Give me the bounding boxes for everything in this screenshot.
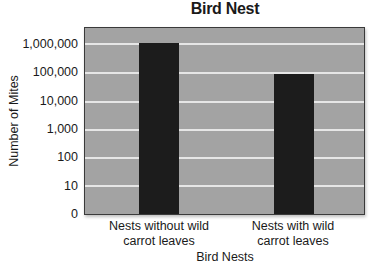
x-tick-nests-without-wild-carrot: Nests without wild carrot leaves — [89, 219, 229, 249]
x-tick-line-2: carrot leaves — [89, 234, 229, 249]
chart-title: Bird Nest — [84, 0, 366, 18]
y-tick-1000: 1,000 — [47, 122, 78, 136]
y-tick-100: 100 — [57, 150, 78, 164]
x-tick-line-2: carrot leaves — [223, 234, 363, 249]
gridline-1000000 — [85, 43, 364, 45]
y-tick-10000: 10,000 — [40, 94, 78, 108]
x-tick-line-1: Nests with wild — [223, 219, 363, 234]
y-tick-1000000: 1,000,000 — [22, 37, 78, 51]
gridline-1000 — [85, 129, 364, 131]
gridline-10 — [85, 185, 364, 187]
gridline-10000 — [85, 101, 364, 103]
gridline-100 — [85, 157, 364, 159]
x-tick-line-1: Nests without wild — [89, 219, 229, 234]
bar-nests-without-wild-carrot — [139, 43, 179, 214]
y-tick-100000: 100,000 — [33, 65, 78, 79]
x-tick-nests-with-wild-carrot: Nests with wild carrot leaves — [223, 219, 363, 249]
y-tick-0: 0 — [71, 207, 78, 221]
plot-area — [84, 27, 365, 215]
y-tick-10: 10 — [64, 179, 78, 193]
x-axis-label: Bird Nests — [84, 250, 366, 264]
bar-nests-with-wild-carrot — [274, 74, 314, 214]
gridline-100000 — [85, 72, 364, 74]
y-axis-label: Number of Mites — [7, 75, 21, 167]
